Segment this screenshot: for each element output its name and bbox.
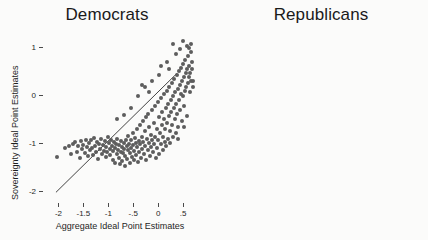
panel-title-democrats: Democrats	[0, 5, 214, 25]
data-point	[171, 42, 175, 46]
y-tick-mark	[39, 95, 43, 96]
data-point	[175, 73, 179, 77]
data-point	[158, 131, 162, 135]
panel-democrats: Democrats -2-1.5-1-.50.510-1-2Aggregate …	[0, 0, 214, 240]
data-point	[181, 39, 185, 43]
data-point	[181, 62, 185, 66]
panel-title-republicans: Republicans	[214, 5, 428, 25]
data-point	[159, 96, 163, 100]
y-tick-label: 1	[16, 43, 36, 52]
data-point	[143, 129, 147, 133]
x-tick-mark	[58, 203, 59, 207]
x-tick-label: 0	[156, 209, 160, 218]
x-tick-label: .5	[180, 209, 187, 218]
x-axis-title: Aggregate Ideal Point Estimates	[56, 221, 185, 231]
data-point	[180, 119, 184, 123]
x-tick-label: -.5	[129, 209, 138, 218]
data-point	[190, 60, 194, 64]
data-point	[144, 158, 148, 162]
data-point	[169, 98, 173, 102]
data-point	[164, 106, 168, 110]
data-point	[173, 117, 177, 121]
scatter-plot-democrats	[46, 32, 194, 200]
data-point	[140, 135, 144, 139]
data-point	[178, 108, 182, 112]
data-point	[167, 114, 171, 118]
data-point	[165, 89, 169, 93]
data-point	[184, 85, 188, 89]
y-tick-mark	[39, 47, 43, 48]
data-point	[176, 87, 180, 91]
data-point	[146, 112, 150, 116]
data-point	[150, 108, 154, 112]
data-point	[129, 106, 133, 110]
data-point	[182, 104, 186, 108]
y-tick-mark	[39, 191, 43, 192]
data-point	[175, 112, 179, 116]
data-point	[126, 134, 130, 138]
data-point	[178, 83, 182, 87]
data-point	[183, 58, 187, 62]
data-point	[140, 83, 144, 87]
data-point	[139, 156, 143, 160]
data-point	[182, 75, 186, 79]
data-point	[153, 104, 157, 108]
data-point	[191, 79, 195, 83]
data-point	[174, 131, 178, 135]
x-tick-mark	[108, 203, 109, 207]
data-point	[169, 110, 173, 114]
data-point	[166, 137, 170, 141]
data-point	[104, 155, 108, 159]
data-point	[113, 161, 117, 165]
data-point	[159, 64, 163, 68]
x-tick-mark	[183, 203, 184, 207]
data-point	[135, 127, 139, 131]
data-point	[170, 81, 174, 85]
x-tick-label: -1.5	[76, 209, 90, 218]
data-point	[96, 157, 100, 161]
data-point	[152, 121, 156, 125]
data-point	[141, 119, 145, 123]
data-point	[143, 85, 147, 89]
data-point	[191, 85, 195, 89]
data-point	[167, 85, 171, 89]
regression-line-democrats	[46, 32, 194, 200]
data-point	[148, 154, 152, 158]
data-point	[78, 156, 82, 160]
data-point	[189, 50, 193, 54]
data-point	[168, 129, 172, 133]
figure-container: Democrats -2-1.5-1-.50.510-1-2Aggregate …	[0, 0, 428, 240]
data-point	[120, 159, 124, 163]
x-tick-mark	[158, 203, 159, 207]
data-point	[156, 100, 160, 104]
data-point	[154, 156, 158, 160]
data-point	[186, 54, 190, 58]
data-point	[132, 158, 136, 162]
x-tick-label: -2	[55, 209, 62, 218]
data-point	[122, 113, 126, 117]
data-point	[157, 152, 161, 156]
x-tick-mark	[133, 203, 134, 207]
data-point	[179, 66, 183, 70]
data-point	[131, 131, 135, 135]
x-tick-mark	[83, 203, 84, 207]
data-point	[128, 161, 132, 165]
data-point	[176, 137, 180, 141]
data-point	[181, 94, 185, 98]
data-point	[145, 137, 149, 141]
data-point	[75, 150, 79, 154]
data-point	[124, 138, 128, 142]
data-point	[94, 150, 98, 154]
data-point	[161, 135, 165, 139]
data-point	[138, 123, 142, 127]
data-point	[161, 148, 165, 152]
data-point	[180, 79, 184, 83]
panel-republicans: Republicans .511.522.521.51.50Aggregate …	[214, 0, 428, 240]
data-point	[171, 135, 175, 139]
data-point	[136, 160, 140, 164]
data-point	[177, 98, 181, 102]
data-point	[160, 110, 164, 114]
data-point	[165, 60, 169, 64]
data-point	[92, 136, 96, 140]
data-point	[86, 154, 90, 158]
